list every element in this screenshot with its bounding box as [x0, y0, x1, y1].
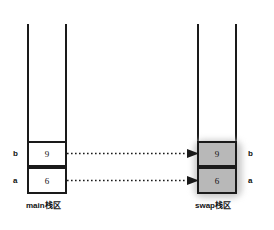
main-cell-a: 6 [27, 167, 67, 194]
main-label-a: a [13, 177, 17, 185]
swap-cell-b: 9 [197, 141, 237, 167]
swap-stack-caption: swap栈区 [195, 202, 231, 210]
arrow-copy-b [67, 149, 199, 158]
swap-label-b: b [248, 150, 253, 158]
swap-cell-a-value: 6 [215, 176, 220, 186]
stack-memory-diagram: 9 6 b a main栈区 9 6 b a swap栈区 [0, 0, 274, 230]
swap-cell-a: 6 [197, 167, 237, 194]
main-label-b: b [13, 150, 18, 158]
main-cell-b-value: 9 [45, 149, 50, 159]
main-stack-caption: main栈区 [26, 202, 61, 210]
main-cell-a-value: 6 [45, 176, 50, 186]
arrow-copy-a [67, 176, 199, 185]
swap-label-a: a [248, 177, 252, 185]
main-cell-b: 9 [27, 141, 67, 167]
swap-cell-b-value: 9 [215, 149, 220, 159]
